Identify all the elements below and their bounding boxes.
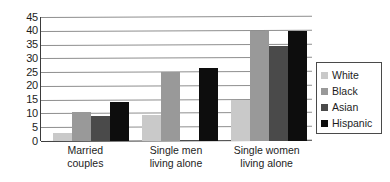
y-tick-label: 35	[26, 39, 38, 50]
bar-hispanic-1	[199, 68, 218, 141]
x-axis-label-line: couples	[40, 157, 131, 170]
x-axis: MarriedcouplesSingle menliving aloneSing…	[40, 144, 312, 178]
y-tick-label: 20	[26, 80, 38, 91]
x-axis-label: Single womenliving alone	[221, 144, 312, 178]
y-tick-label: 5	[32, 122, 38, 133]
y-tick-label: 40	[26, 25, 38, 36]
bar-black-2	[250, 31, 269, 141]
bar-group	[41, 17, 134, 141]
legend-item-white[interactable]: White	[321, 67, 378, 83]
legend-swatch-icon	[321, 104, 328, 111]
bar-asian-0	[91, 116, 110, 141]
x-axis-label: Marriedcouples	[40, 144, 131, 178]
y-tick-label: 10	[26, 108, 38, 119]
x-axis-label-line: Single men	[131, 144, 222, 157]
bar-group	[223, 17, 312, 141]
bar-white-0	[53, 133, 72, 141]
x-axis-label-line: Married	[40, 144, 131, 157]
legend-swatch-icon	[321, 120, 328, 127]
x-axis-label-line: living alone	[221, 157, 312, 170]
bar-group	[134, 17, 223, 141]
y-tick-label: 15	[26, 94, 38, 105]
bar-asian-2	[269, 46, 288, 141]
legend-item-black[interactable]: Black	[321, 83, 378, 99]
y-axis: 454035302520151050	[12, 12, 38, 140]
y-tick-label: 30	[26, 53, 38, 64]
y-tick-label: 45	[26, 12, 38, 23]
bar-hispanic-2	[288, 31, 307, 141]
bar-black-1	[161, 72, 180, 141]
legend-swatch-icon	[321, 88, 328, 95]
y-tick-label: 25	[26, 67, 38, 78]
x-axis-label-line: living alone	[131, 157, 222, 170]
y-tick-label: 0	[32, 136, 38, 147]
bar-chart: 454035302520151050 MarriedcouplesSingle …	[0, 0, 390, 182]
x-axis-label: Single menliving alone	[131, 144, 222, 178]
bar-hispanic-0	[110, 102, 129, 141]
bar-black-0	[72, 112, 91, 141]
bar-asian-1	[180, 140, 199, 141]
plot-area	[40, 17, 312, 141]
bar-white-2	[231, 100, 250, 141]
legend: WhiteBlackAsianHispanic	[316, 62, 382, 134]
legend-swatch-icon	[321, 72, 328, 79]
x-axis-label-line: Single women	[221, 144, 312, 157]
bar-white-1	[142, 115, 161, 141]
legend-label: Asian	[332, 102, 358, 113]
legend-label: Hispanic	[332, 118, 372, 129]
bars-layer	[41, 17, 312, 141]
legend-label: White	[332, 70, 359, 81]
legend-label: Black	[332, 86, 358, 97]
legend-item-hispanic[interactable]: Hispanic	[321, 115, 378, 131]
legend-item-asian[interactable]: Asian	[321, 99, 378, 115]
